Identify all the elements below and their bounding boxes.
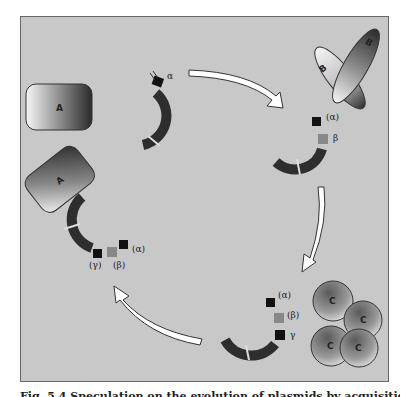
svg-text:C: C [360,315,367,325]
gene-label-beta: β [333,133,338,143]
gene-label-gamma: γ [290,330,295,340]
arrow-stage2-to-stage3 [302,187,325,272]
figure-caption: Fig. 5.4 Speculation on the evolution of… [20,388,400,397]
svg-text:C: C [355,343,362,353]
gene-label-gamma-paren4: (γ) [89,260,101,270]
label-a1: A [56,103,63,113]
plasmid-stage3: (α) (β) γ [225,290,299,360]
plasmid-stage1: α [143,71,173,146]
gene-label-beta-paren3: (β) [287,310,299,320]
protein-a-bottom: A [21,142,99,216]
plasmid-stage4: (α) (β) (γ) [64,197,145,270]
gene-label-beta-paren4: (β) [113,260,125,270]
arrow-stage1-to-stage2 [189,70,283,108]
gene-label-alpha: α [167,71,173,81]
protein-c-cluster: C C C C [311,281,382,367]
gene-label-alpha-paren4: (α) [132,244,145,254]
gene-label-alpha-paren3: (α) [278,290,291,300]
protein-a-top: A [26,84,92,130]
svg-text:C: C [327,341,334,351]
plasmid-stage2: (α) β [276,112,339,175]
gene-label-alpha-paren: (α) [326,112,339,122]
arrow-stage3-to-stage4 [114,286,202,345]
diagram: A A B B C C C C α [0,0,409,397]
svg-text:C: C [329,296,336,306]
